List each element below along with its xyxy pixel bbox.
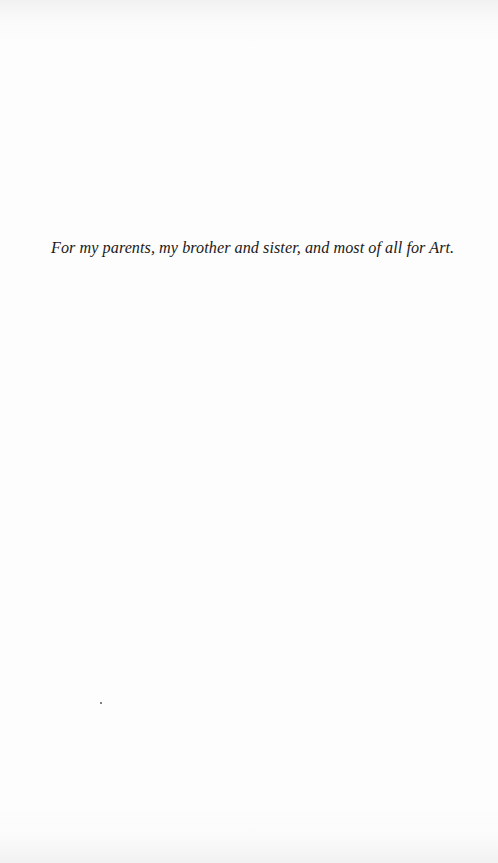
book-page: For my parents, my brother and sister, a…	[0, 0, 498, 863]
dedication-text: For my parents, my brother and sister, a…	[51, 238, 471, 258]
print-speck	[100, 702, 102, 704]
